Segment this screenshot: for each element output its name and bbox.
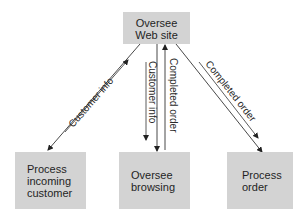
annotation-arrow-completed-order-right — [199, 62, 258, 138]
edge-label-completed-order-right: Completed order — [203, 58, 258, 124]
node-label-line: browsing — [131, 181, 190, 193]
node-label-line: Oversee — [131, 169, 190, 181]
node-label-line: Process — [27, 163, 86, 175]
arrow-top-to-right — [176, 44, 262, 152]
node-label-line: Web site — [123, 29, 190, 41]
edge-label-customer-info-mid: Customer info — [147, 61, 158, 124]
node-oversee-web-site: Oversee Web site — [123, 12, 190, 44]
node-oversee-browsing: Oversee browsing — [119, 152, 190, 209]
edge-label-customer-info-left: Customer info — [66, 75, 116, 129]
node-label-line: Process — [242, 169, 293, 181]
node-label-line: Oversee — [123, 17, 190, 29]
node-process-order: Process order — [227, 152, 293, 209]
node-process-incoming-customer: Process incoming customer — [15, 152, 86, 209]
node-label-line: customer — [27, 187, 86, 199]
node-label-line: incoming — [27, 175, 86, 187]
edge-label-completed-order-mid: Completed order — [168, 58, 179, 133]
node-label-line: order — [242, 181, 293, 193]
